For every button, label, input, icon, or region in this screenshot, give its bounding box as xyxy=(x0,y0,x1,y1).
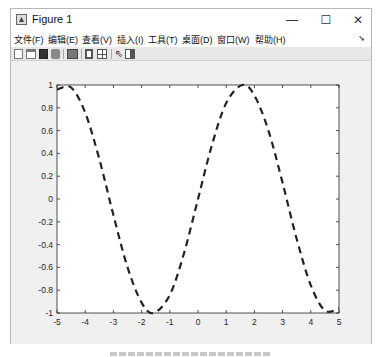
x-tick-label: 2 xyxy=(252,317,257,327)
x-tick-label: 0 xyxy=(196,317,201,327)
x-tick-label: -5 xyxy=(53,317,61,327)
y-tick-label: -1 xyxy=(45,308,53,318)
y-tick-label: 0.2 xyxy=(41,171,53,181)
x-tick-label: -2 xyxy=(138,317,146,327)
y-tick-label: 0.4 xyxy=(41,148,53,158)
x-tick-label: -3 xyxy=(110,317,118,327)
y-tick-label: 0.8 xyxy=(41,103,53,113)
figure-caption-cropped xyxy=(110,351,270,357)
x-tick-label: 4 xyxy=(308,317,313,327)
y-tick-label: -0.4 xyxy=(38,240,53,250)
y-tick-label: 0 xyxy=(48,194,53,204)
x-tick-label: -1 xyxy=(166,317,174,327)
y-tick-label: 0.6 xyxy=(41,126,53,136)
y-tick-label: -0.8 xyxy=(38,285,53,295)
y-tick-label: -0.6 xyxy=(38,262,53,272)
y-tick-label: -0.2 xyxy=(38,217,53,227)
x-tick-label: 1 xyxy=(224,317,229,327)
x-tick-label: -4 xyxy=(81,317,89,327)
line-chart[interactable]: 10.80.60.40.20-0.2-0.4-0.6-0.8-1 -5-4-3-… xyxy=(0,0,384,357)
x-tick-label: 5 xyxy=(337,317,342,327)
y-tick-label: 1 xyxy=(48,80,53,90)
x-tick-label: 3 xyxy=(280,317,285,327)
